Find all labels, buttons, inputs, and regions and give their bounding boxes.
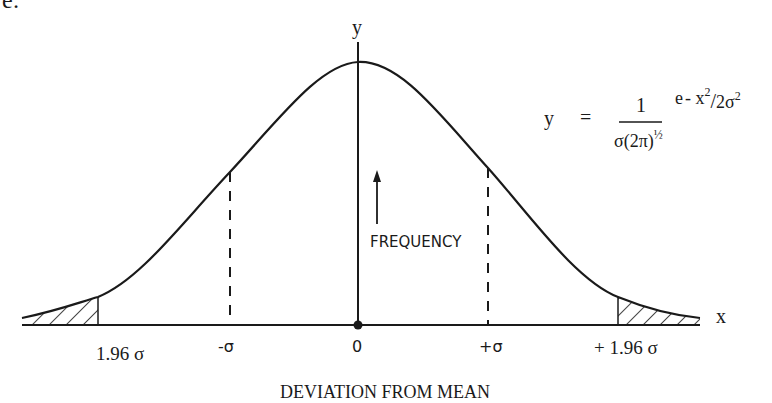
tick-label-minus-1-96-sigma: 1.96 σ [96,343,144,364]
tick-label-plus-1-96-sigma: + 1.96 σ [594,337,658,358]
formula-denominator: σ(2π)½ [614,128,663,152]
formula-lhs: y [544,107,554,130]
frequency-label: FREQUENCY [370,233,462,251]
normal-distribution-figure: e: y x FREQUENCY y = 1 σ(2π)½ e- x2/2σ2 … [0,0,772,403]
tick-label-zero: 0 [352,337,362,356]
cropped-text-fragment: e: [2,0,19,13]
x-axis-label: x [716,305,726,327]
formula-exponential: e- x2/2σ2 [675,85,741,112]
origin-dot [354,321,363,330]
formula-equals: = [580,106,591,128]
bell-curve [22,62,700,318]
y-axis-label: y [352,16,362,39]
tick-label-plus-sigma: +σ [479,337,503,356]
tick-label-minus-sigma: -σ [218,337,234,356]
arrow-up-icon [373,170,381,182]
x-axis-title: DEVIATION FROM MEAN [280,382,490,402]
formula-numerator: 1 [636,94,646,116]
normal-pdf-formula: y = 1 σ(2π)½ e- x2/2σ2 [544,85,741,152]
